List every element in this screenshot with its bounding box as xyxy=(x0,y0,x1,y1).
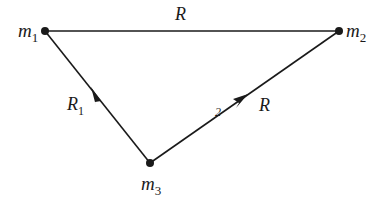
three-body-diagram: m1 m2 m3 R R1 R 2 xyxy=(0,0,386,200)
arrowhead-r1-icon xyxy=(91,87,101,106)
node-m2-dot xyxy=(335,27,343,35)
node-m3-dot xyxy=(146,159,154,167)
node-m1-label: m1 xyxy=(18,20,38,45)
arrowhead-r-icon xyxy=(233,94,248,108)
edge-m3-m1-label: R1 xyxy=(66,94,84,118)
node-m3-label: m3 xyxy=(141,173,161,198)
edge-m1-m2-label: R xyxy=(174,4,186,24)
node-m1-dot xyxy=(41,27,49,35)
edge-m3-m2-label: R xyxy=(258,95,270,115)
edge-m3-m2-mark: 2 xyxy=(215,105,221,119)
node-m2-label: m2 xyxy=(346,20,366,45)
